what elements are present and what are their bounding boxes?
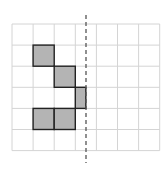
shaded-cell	[54, 66, 75, 87]
shaded-cell	[54, 108, 75, 129]
shaded-cell	[33, 45, 54, 66]
shaded-cell	[75, 87, 86, 108]
reflection-grid-diagram	[0, 0, 167, 170]
shaded-cell	[33, 108, 54, 129]
